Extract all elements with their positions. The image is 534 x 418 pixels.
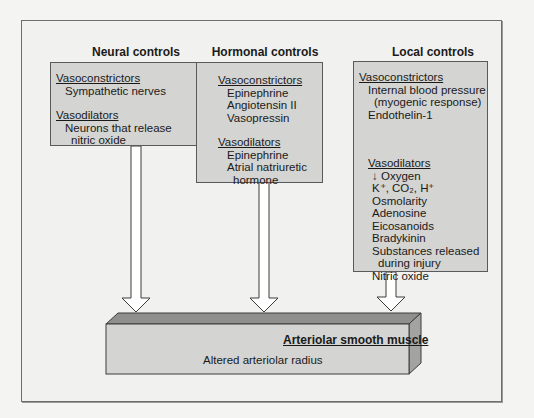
local-vasodilator-item: Nitric oxide xyxy=(359,270,487,283)
local-heading: Local controls xyxy=(353,45,513,59)
neural-vasodilator-item: nitric oxide xyxy=(56,134,209,147)
neural-vasodilator-item: Neurons that release xyxy=(56,122,209,135)
hormonal-vasodilators-label: Vasodilators xyxy=(218,136,322,149)
hormonal-vasoconstrictor-item: Epinephrine xyxy=(218,87,322,100)
local-vasodilator-item: Adenosine xyxy=(359,207,487,220)
hormonal-box: Vasoconstrictors Epinephrine Angiotensin… xyxy=(196,62,323,183)
neural-arrow xyxy=(122,146,150,312)
local-vasoconstrictor-item: Endothelin-1 xyxy=(359,109,487,122)
neural-box: Vasoconstrictors Sympathetic nerves Vaso… xyxy=(50,62,210,146)
local-vasodilator-item: Substances released xyxy=(359,245,487,258)
local-vasoconstrictor-item: Internal blood pressure xyxy=(359,84,487,97)
local-vasodilator-item: ↓ Oxygen xyxy=(359,170,487,183)
neural-vasodilators-label: Vasodilators xyxy=(56,109,209,122)
muscle-box-top xyxy=(106,313,421,324)
local-box: Vasoconstrictors Internal blood pressure… xyxy=(353,61,488,272)
local-vasodilator-item: Osmolarity xyxy=(359,195,487,208)
local-vasodilator-item: K⁺, CO₂, H⁺ xyxy=(359,182,487,195)
hormonal-heading: Hormonal controls xyxy=(195,45,335,59)
muscle-title: Arteriolar smooth muscle xyxy=(283,333,428,347)
muscle-box-front xyxy=(106,324,409,374)
hormonal-vasodilator-item: Epinephrine xyxy=(218,149,322,162)
neural-vasoconstrictors-label: Vasoconstrictors xyxy=(56,72,209,85)
hormonal-vasoconstrictor-item: Angiotensin II xyxy=(218,99,322,112)
hormonal-arrow xyxy=(250,182,278,312)
hormonal-vasodilator-item: Atrial natriuretic xyxy=(218,161,322,174)
local-vasoconstrictor-item: (myogenic response) xyxy=(359,96,487,109)
hormonal-vasodilator-item: hormone xyxy=(218,174,322,187)
muscle-subtitle: Altered arteriolar radius xyxy=(203,354,323,366)
local-vasodilator-item: Eicosanoids xyxy=(359,220,487,233)
hormonal-vasoconstrictor-item: Vasopressin xyxy=(218,112,322,125)
local-vasodilator-item: Bradykinin xyxy=(359,232,487,245)
local-vasodilator-item: during injury xyxy=(359,257,487,270)
local-vasoconstrictors-label: Vasoconstrictors xyxy=(359,71,487,84)
local-vasodilators-label: Vasodilators xyxy=(359,157,487,170)
neural-vasoconstrictor-item: Sympathetic nerves xyxy=(56,85,209,98)
hormonal-vasoconstrictors-label: Vasoconstrictors xyxy=(218,74,322,87)
